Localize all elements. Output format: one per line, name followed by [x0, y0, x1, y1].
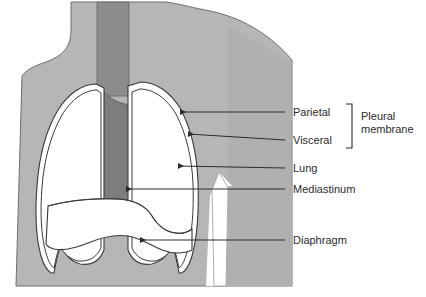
- pleural-membrane-bracket-group: [346, 104, 352, 148]
- label-mediastinum: Mediastinum: [293, 183, 355, 195]
- label-pleural-membrane-line2: membrane: [361, 123, 414, 135]
- right-arm: [226, 186, 292, 286]
- labels-group: Parietal Visceral Lung Mediastinum Diaph…: [293, 106, 414, 246]
- label-lung: Lung: [293, 162, 317, 174]
- anatomy-figure-root: Parietal Visceral Lung Mediastinum Diaph…: [0, 0, 426, 297]
- label-diaphragm: Diaphragm: [293, 234, 347, 246]
- label-parietal: Parietal: [293, 106, 330, 118]
- label-visceral: Visceral: [293, 134, 332, 146]
- trachea-strip: [97, 2, 129, 96]
- pleural-membrane-bracket: [346, 104, 352, 148]
- thoracic-cavity-diagram: Parietal Visceral Lung Mediastinum Diaph…: [0, 0, 426, 297]
- label-pleural-membrane-line1: Pleural: [361, 110, 395, 122]
